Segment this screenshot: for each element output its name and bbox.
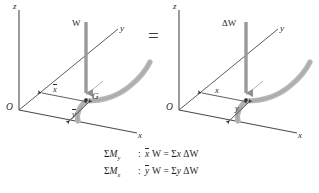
- moment-y-symbol: ΣMy: [104, 149, 138, 161]
- left-ybar-label: y: [72, 110, 76, 119]
- left-centroid-point: [84, 98, 87, 101]
- rhs-delta-weight-x: ΔW: [183, 166, 198, 176]
- moment-equation-x: ΣMx : y W = Σy ΔW: [104, 166, 284, 183]
- right-z-axis-label: z: [173, 2, 177, 11]
- moment-subscript-x: x: [117, 171, 120, 178]
- xbar-term: x: [145, 149, 149, 159]
- right-y-dimension-label: y: [235, 104, 239, 113]
- moment-y-colon: :: [138, 149, 145, 159]
- right-projection-line-a: [246, 81, 263, 95]
- ybar-term: y: [145, 166, 149, 176]
- left-centroid-label: G: [92, 92, 99, 101]
- right-x-axis-label: x: [298, 131, 302, 140]
- left-x-axis-label: x: [138, 131, 142, 140]
- weight-term-x: W: [152, 166, 161, 176]
- right-body-curve-fill: [246, 62, 310, 101]
- left-ybar-overbar: y: [72, 110, 76, 119]
- right-x-dimension-arrow: [202, 93, 243, 101]
- moment-equations: ΣMy : x W = Σx ΔW ΣMx : y W = Σy ΔW: [104, 149, 284, 183]
- right-delta-weight-label: ΔW: [222, 19, 236, 28]
- equivalence-equals-sign: =: [148, 26, 159, 45]
- right-x-dimension-label: x: [215, 86, 219, 95]
- rhs-delta-weight-y: ΔW: [183, 149, 198, 159]
- right-element-point: [244, 98, 247, 101]
- centroid-figure: z y x O W G x y = z y x O ΔW x y ΣMy : x…: [0, 0, 319, 193]
- left-xbar-label: x: [53, 85, 57, 94]
- left-y-axis-label: y: [120, 24, 124, 33]
- weight-term-y: W: [152, 149, 161, 159]
- left-xbar-overbar: x: [53, 85, 57, 94]
- left-diagram-graphics: [19, 10, 150, 133]
- right-diagram-graphics: [179, 10, 310, 133]
- moment-x-colon: :: [138, 166, 145, 176]
- left-origin-label: O: [6, 103, 13, 113]
- left-weight-label: W: [72, 19, 81, 28]
- right-origin-label: O: [166, 103, 173, 113]
- moment-x-expression: y W = Σy ΔW: [145, 166, 198, 176]
- left-xbar-dimension-arrow: [42, 93, 83, 101]
- right-y-axis-label: y: [280, 24, 284, 33]
- moment-y-expression: x W = Σx ΔW: [145, 149, 198, 159]
- left-z-axis-label: z: [13, 2, 17, 11]
- moment-subscript-y: y: [117, 154, 120, 161]
- moment-x-symbol: ΣMx: [104, 166, 138, 178]
- moment-equation-y: ΣMy : x W = Σx ΔW: [104, 149, 284, 166]
